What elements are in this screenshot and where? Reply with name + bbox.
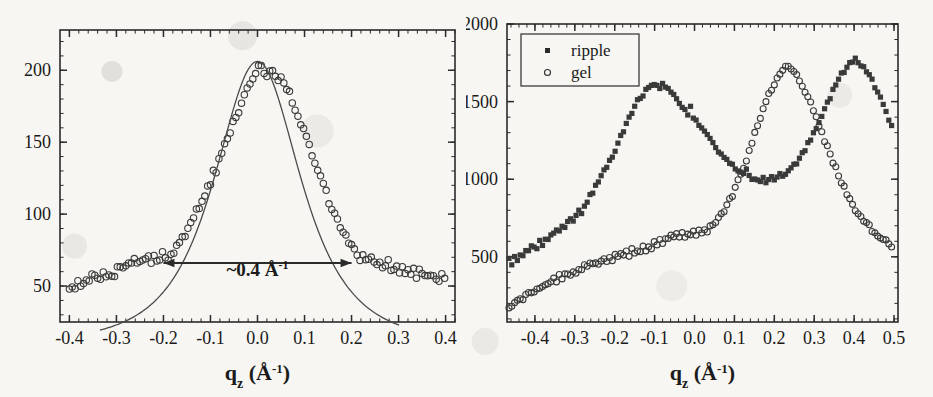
data-point: [515, 258, 520, 263]
data-point: [571, 218, 576, 223]
data-point: [289, 100, 295, 106]
data-point: [585, 200, 590, 205]
x-tick-label: 0.2: [340, 328, 363, 348]
x-tick-label: -0.4: [55, 328, 84, 348]
x-tick-label: -0.2: [600, 328, 629, 348]
x-tick-label: -0.3: [102, 328, 131, 348]
data-point: [613, 149, 618, 154]
x-tick-label: 0.0: [683, 328, 706, 348]
x-tick-label: 0.4: [843, 328, 866, 348]
data-point: [604, 165, 609, 170]
data-point: [735, 177, 741, 183]
data-point: [875, 89, 880, 94]
series-data: [66, 62, 448, 292]
data-point: [771, 82, 777, 88]
data-point: [710, 140, 715, 145]
data-point: [610, 155, 615, 160]
legend-label-gel: gel: [571, 63, 592, 82]
legend-label-ripple: ripple: [571, 41, 611, 60]
data-point: [794, 161, 799, 166]
data-point: [534, 246, 539, 251]
data-point: [808, 138, 813, 143]
y-tick-label: 100: [24, 204, 51, 224]
data-point: [562, 225, 567, 230]
y-tick-label: 50: [33, 276, 51, 296]
y-tick-label: 500: [471, 247, 498, 267]
x-tick-label: 0.2: [763, 328, 786, 348]
data-point: [526, 248, 531, 253]
data-point: [241, 92, 247, 98]
data-point: [385, 257, 391, 263]
data-point: [867, 72, 872, 77]
data-point: [632, 104, 637, 109]
data-point: [761, 175, 766, 180]
data-point: [640, 93, 645, 98]
data-point: [506, 256, 511, 261]
data-point: [724, 202, 730, 208]
data-point: [334, 216, 340, 222]
data-point: [281, 80, 287, 86]
x-tick-label: 0.3: [803, 328, 826, 348]
x-tick-label: 0.4: [434, 328, 457, 348]
data-point: [810, 108, 816, 114]
data-point: [540, 243, 545, 248]
data-point: [520, 253, 525, 258]
data-point: [836, 173, 842, 179]
series-gel: [506, 63, 895, 311]
annotation-text: ~0.4 Å-1: [226, 258, 288, 280]
data-point: [850, 201, 856, 207]
data-point: [757, 115, 763, 121]
data-point: [320, 180, 326, 186]
data-point: [886, 118, 891, 123]
y-tick-label: 2000: [466, 14, 498, 34]
data-point: [688, 104, 693, 109]
x-tick-label: -0.1: [640, 328, 669, 348]
fwhm-arrow-label: ~0.4 Å-1: [163, 258, 351, 280]
data-point: [573, 213, 578, 218]
data-point: [842, 70, 847, 75]
data-point: [303, 133, 309, 139]
data-point: [752, 129, 758, 135]
data-point: [657, 86, 662, 91]
data-point: [413, 275, 419, 281]
data-point: [836, 77, 841, 82]
data-point: [732, 184, 738, 190]
data-point: [869, 77, 874, 82]
data-point: [713, 145, 718, 150]
data-point: [674, 96, 679, 101]
y-tick-label: 1000: [466, 169, 498, 189]
data-point: [615, 141, 620, 146]
data-point: [590, 191, 595, 196]
data-point: [802, 148, 807, 153]
data-point: [828, 96, 833, 101]
data-point: [312, 160, 318, 166]
data-point: [827, 151, 833, 157]
data-point: [579, 211, 584, 216]
x-axis-title: qz (Å-1): [670, 360, 735, 391]
data-point: [763, 99, 769, 105]
data-point: [853, 56, 858, 61]
x-tick-label: 0.5: [883, 328, 906, 348]
y-tick-label: 1500: [466, 92, 498, 112]
data-point: [309, 153, 315, 159]
data-point: [626, 253, 632, 259]
data-point: [822, 106, 827, 111]
data-point: [760, 106, 766, 112]
data-point: [746, 147, 752, 153]
data-point: [844, 65, 849, 70]
data-point: [227, 130, 233, 136]
data-point: [317, 173, 323, 179]
data-point: [159, 249, 165, 255]
data-point: [755, 123, 761, 129]
legend: ripplegel: [521, 34, 639, 86]
y-tick-label: 200: [24, 60, 51, 80]
data-point: [883, 109, 888, 114]
data-point: [802, 89, 808, 95]
data-point: [295, 113, 301, 119]
y-tick-label: 150: [24, 132, 51, 152]
data-point: [202, 193, 208, 199]
x-tick-label: 0.3: [387, 328, 410, 348]
x-tick-label: -0.2: [149, 328, 178, 348]
data-point: [749, 140, 755, 146]
data-point: [621, 129, 626, 134]
